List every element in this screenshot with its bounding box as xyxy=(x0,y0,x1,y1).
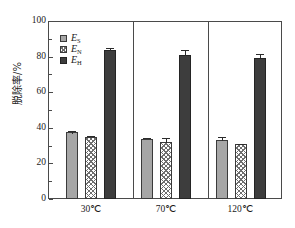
bar-en-30c xyxy=(85,137,97,199)
x-tick-label-120c: 120℃ xyxy=(210,204,270,214)
legend-swatch-icon xyxy=(60,57,67,64)
y-tick-label: 80 xyxy=(24,52,46,62)
error-bar-cap xyxy=(143,138,151,139)
legend-item-eh: EH xyxy=(60,55,82,65)
panel-separator xyxy=(208,21,209,199)
bar-es-70c xyxy=(141,139,153,200)
error-bar-cap xyxy=(256,54,264,55)
error-bar-cap xyxy=(237,144,245,145)
y-tick-mark xyxy=(49,57,53,58)
y-tick-label: 0 xyxy=(24,194,46,204)
error-bar-cap xyxy=(68,131,76,132)
y-minor-tick-mark xyxy=(49,39,52,40)
bar-en-120c xyxy=(235,144,247,199)
x-tick-label-70c: 70℃ xyxy=(136,204,196,214)
y-tick-mark xyxy=(49,92,53,93)
legend-swatch-icon xyxy=(60,46,67,53)
bar-es-30c xyxy=(66,132,78,199)
error-bar-cap xyxy=(162,138,170,139)
y-tick-label: 40 xyxy=(24,123,46,133)
y-tick-label: 100 xyxy=(24,16,46,26)
legend-swatch-icon xyxy=(60,35,67,42)
x-tick-label-30c: 30℃ xyxy=(61,204,121,214)
y-minor-tick-mark xyxy=(49,146,52,147)
y-minor-tick-mark xyxy=(49,181,52,182)
y-tick-mark xyxy=(49,199,53,200)
y-axis-tick-labels: 100 80 60 40 20 0 xyxy=(22,0,46,228)
legend-item-en: EN xyxy=(60,44,82,54)
y-tick-label: 60 xyxy=(24,87,46,97)
bar-eh-70c xyxy=(179,55,191,199)
y-tick-mark xyxy=(49,163,53,164)
legend-label-eh: EH xyxy=(71,55,82,66)
y-tick-mark xyxy=(49,128,53,129)
chart-figure: 脱除率/% 100 80 60 40 20 0 xyxy=(0,0,295,228)
error-bar-cap xyxy=(218,137,226,138)
panel-separator xyxy=(133,21,134,199)
legend-item-es: ES xyxy=(60,33,82,43)
bar-eh-120c xyxy=(254,58,266,200)
error-bar-cap xyxy=(87,136,95,137)
error-bar-cap xyxy=(106,48,114,49)
y-minor-tick-mark xyxy=(49,74,52,75)
bar-en-70c xyxy=(160,142,172,199)
bar-es-120c xyxy=(216,140,228,199)
y-tick-mark xyxy=(49,21,53,22)
bar-eh-30c xyxy=(104,50,116,200)
error-bar-cap xyxy=(181,50,189,51)
y-minor-tick-mark xyxy=(49,110,52,111)
y-tick-label: 20 xyxy=(24,158,46,168)
legend: ES EN EH xyxy=(60,33,82,66)
